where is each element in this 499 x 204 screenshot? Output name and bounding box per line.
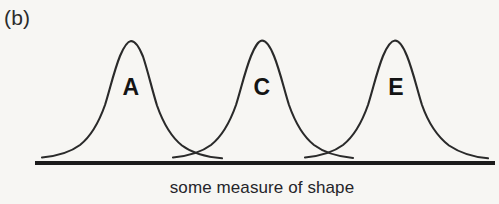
distribution-curves-plot [0, 0, 499, 204]
curve-label-e: E [388, 76, 404, 99]
curve-group-a [42, 41, 222, 158]
curve-label-a: A [123, 76, 140, 99]
figure-panel-b: (b) A C E some measure of shape [0, 0, 499, 204]
x-axis-caption: some measure of shape [170, 178, 354, 198]
curve-label-c: C [254, 76, 271, 99]
bell-curve-a [42, 41, 222, 158]
